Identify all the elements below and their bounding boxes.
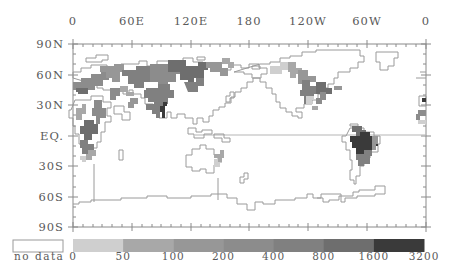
legend-tick-label: 200 [212, 250, 235, 262]
legend-tick-label: 0 [69, 250, 77, 262]
legend-tick-label: 50 [115, 250, 130, 262]
legend-tick-label: 1600 [358, 250, 389, 262]
legend-tick-label: 100 [162, 250, 185, 262]
legend-tick-label: 400 [262, 250, 285, 262]
world-map [0, 0, 453, 277]
legend-no-data-label: no data [14, 250, 64, 262]
legend-tick-label: 800 [312, 250, 335, 262]
legend-tick-label: 3200 [409, 250, 440, 262]
